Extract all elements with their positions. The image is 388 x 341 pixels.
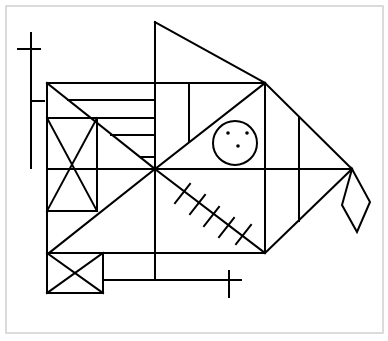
geometric-drawing (0, 0, 388, 341)
